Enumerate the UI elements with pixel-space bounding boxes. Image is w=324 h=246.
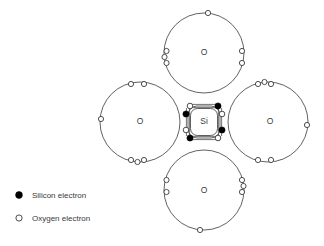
electron-oxygen bbox=[239, 189, 244, 194]
legend-label-silicon: Silicon electron bbox=[32, 191, 86, 200]
electron-oxygen bbox=[135, 159, 140, 164]
electron-oxygen bbox=[187, 103, 193, 109]
electron-oxygen bbox=[162, 54, 167, 59]
electron-oxygen bbox=[219, 111, 225, 117]
electron-oxygen bbox=[128, 81, 133, 86]
electron-oxygen bbox=[164, 189, 169, 194]
legend: Silicon electron Oxygen electron bbox=[16, 191, 91, 223]
oxygen-label-left: O bbox=[137, 116, 144, 126]
oxygen-electrons-right bbox=[255, 79, 309, 162]
electron-oxygen bbox=[255, 157, 260, 162]
electron-oxygen bbox=[128, 157, 133, 162]
electron-oxygen bbox=[268, 157, 273, 162]
legend-label-oxygen: Oxygen electron bbox=[32, 214, 90, 223]
bonding-diagram: O O O O Si Silicon electron Oxygen elect… bbox=[0, 0, 324, 246]
electron-oxygen bbox=[239, 60, 244, 65]
oxygen-electrons-top bbox=[162, 10, 245, 65]
electron-silicon bbox=[219, 127, 225, 133]
legend-hollow-circle-icon bbox=[16, 215, 22, 221]
electron-oxygen bbox=[98, 116, 103, 121]
electron-silicon bbox=[183, 111, 189, 117]
electron-oxygen bbox=[304, 122, 309, 127]
electron-oxygen bbox=[197, 227, 202, 232]
electron-oxygen bbox=[141, 81, 146, 86]
electron-oxygen bbox=[164, 60, 169, 65]
electron-oxygen bbox=[164, 48, 169, 53]
electron-oxygen bbox=[164, 177, 169, 182]
electron-oxygen bbox=[241, 183, 246, 188]
electron-oxygen bbox=[268, 81, 273, 86]
oxygen-label-bottom: O bbox=[201, 185, 208, 195]
silicon-label: Si bbox=[200, 116, 208, 126]
electron-oxygen bbox=[183, 127, 189, 133]
electron-oxygen bbox=[255, 81, 260, 86]
diagram-canvas: O O O O Si Silicon electron Oxygen elect… bbox=[0, 0, 324, 246]
electron-oxygen bbox=[262, 79, 267, 84]
oxygen-label-right: O bbox=[267, 116, 274, 126]
oxygen-label-top: O bbox=[201, 47, 208, 57]
legend-filled-dot-icon bbox=[16, 192, 23, 199]
electron-oxygen bbox=[205, 10, 210, 15]
electron-oxygen bbox=[239, 48, 244, 53]
electron-oxygen bbox=[141, 157, 146, 162]
electron-silicon bbox=[215, 103, 221, 109]
electron-silicon bbox=[187, 135, 193, 141]
electron-oxygen bbox=[239, 177, 244, 182]
electron-oxygen bbox=[215, 135, 221, 141]
